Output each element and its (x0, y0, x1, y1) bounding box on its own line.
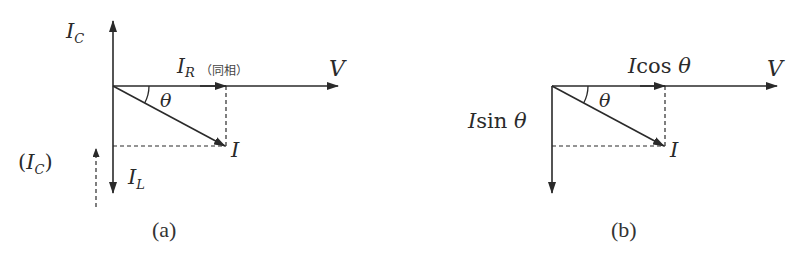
v-label-b: V (767, 56, 785, 81)
panel-b: Icos θ V θ Isin θ I (b) (467, 54, 785, 242)
ic-paren-label: (IC) (18, 150, 53, 177)
il-label: IL (127, 165, 145, 192)
theta-arc-b (584, 86, 588, 103)
theta-label: θ (160, 89, 172, 111)
ic-label: IC (65, 19, 84, 46)
panel-a: IC IR （同相） V θ I IL (IC) (a) (18, 19, 347, 242)
icos-label: Icos θ (627, 54, 691, 78)
theta-label-b: θ (599, 89, 611, 111)
theta-arc (145, 86, 149, 103)
isin-label: Isin θ (467, 109, 527, 133)
v-label: V (329, 56, 347, 81)
caption-a: (a) (152, 217, 176, 242)
i-label-b: I (669, 138, 679, 162)
caption-b: (b) (611, 217, 637, 242)
ir-label: IR (176, 54, 195, 80)
i-label: I (230, 138, 240, 162)
phasor-diagram-figure: IC IR （同相） V θ I IL (IC) (a) Icos θ V θ … (0, 0, 812, 264)
ir-in-phase-note: （同相） (200, 64, 248, 78)
